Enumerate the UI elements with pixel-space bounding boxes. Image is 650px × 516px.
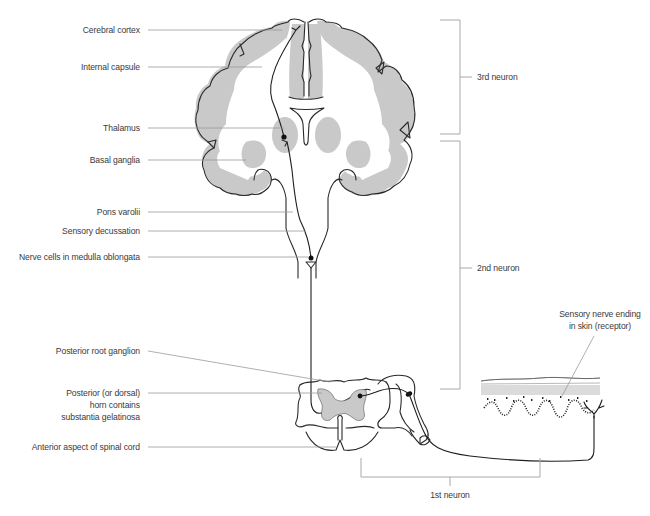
label-cerebral-cortex: Cerebral cortex: [83, 25, 140, 36]
skin-surface: [481, 377, 600, 381]
medulla-synapse: [306, 262, 316, 268]
right-basal-ganglia: [346, 141, 371, 169]
dermal-papillae: [484, 400, 594, 417]
right-thalamus: [315, 117, 341, 153]
leader-receptor: [562, 336, 594, 396]
thalamus-nerve-cell: [281, 134, 286, 139]
grey-matter-butterfly: [318, 389, 367, 421]
label-anterior-spinal-cord: Anterior aspect of spinal cord: [32, 442, 140, 453]
label-thalamus: Thalamus: [103, 123, 140, 134]
brainstem-right-outline: [316, 179, 342, 278]
label-nerve-cells-medulla: Nerve cells in medulla oblongata: [19, 252, 140, 263]
label-receptor-line1: Sensory nerve ending: [550, 309, 650, 320]
dorsal-horn-cell: [358, 394, 363, 399]
label-pons-varolii: Pons varolii: [97, 207, 140, 218]
medulla-nerve-cell: [309, 256, 314, 261]
bracket-first-neuron: [361, 458, 540, 486]
receptor-nerve-ending: [584, 400, 604, 418]
skin-section: [481, 377, 604, 418]
left-basal-ganglia: [242, 141, 267, 169]
medial-cortex-left: [289, 24, 304, 98]
label-posterior-horn-line1: Posterior (or dorsal): [66, 388, 140, 399]
label-first-neuron: 1st neuron: [420, 490, 480, 501]
label-posterior-root-ganglion: Posterior root ganglion: [56, 346, 140, 357]
sensory-pathway-diagram: Cerebral cortex Internal capsule Thalamu…: [0, 0, 650, 516]
leader-posterior-root-ganglion: [148, 351, 330, 382]
label-basal-ganglia: Basal ganglia: [90, 155, 140, 166]
bracket-third-neuron: [440, 20, 472, 134]
first-neuron-peripheral-fiber: [409, 394, 594, 461]
label-internal-capsule: Internal capsule: [81, 62, 140, 73]
label-sensory-decussation: Sensory decussation: [62, 226, 140, 237]
epidermis-layers: [481, 377, 600, 394]
label-third-neuron: 3rd neuron: [477, 72, 518, 83]
label-posterior-horn-line2: horn contains: [90, 400, 140, 411]
anterior-white-matter-line: [304, 425, 374, 428]
brainstem-left-outline: [272, 179, 298, 278]
bracket-second-neuron: [440, 141, 472, 389]
medial-cortex-right: [308, 24, 323, 98]
label-posterior-horn-line3: substantia gelatinosa: [61, 412, 140, 423]
label-receptor-line2: in skin (receptor): [550, 321, 650, 332]
spinal-cord-left-contour: [296, 385, 304, 427]
brain-coronal-section: [195, 19, 415, 278]
dorsal-root-outline: [378, 375, 428, 444]
label-second-neuron: 2nd neuron: [477, 263, 520, 274]
